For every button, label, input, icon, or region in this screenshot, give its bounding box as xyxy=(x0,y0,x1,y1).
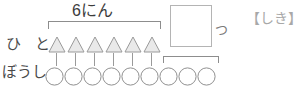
circle-icon xyxy=(121,66,140,87)
people-triangle-row xyxy=(47,33,161,53)
connector-line xyxy=(142,53,161,66)
group-count-label: 6にん xyxy=(72,1,113,20)
worksheet-figure: 6にん つ 【しき】 ひ と xyxy=(0,0,303,89)
connector-line xyxy=(66,53,85,66)
circle-icon xyxy=(159,66,178,87)
unit-suffix-label: つ xyxy=(215,22,228,38)
circle-icon xyxy=(102,66,121,87)
triangle-icon xyxy=(142,33,161,53)
formula-marker-label: 【しき】 xyxy=(246,10,302,27)
connector-line-group xyxy=(47,53,161,66)
connector-line xyxy=(47,53,66,66)
circle-icon xyxy=(140,66,159,87)
triangle-icon xyxy=(123,33,142,53)
connector-line xyxy=(85,53,104,66)
triangle-icon xyxy=(47,33,66,53)
circle-icon xyxy=(83,66,102,87)
circle-icon xyxy=(197,66,216,87)
triangle-icon xyxy=(104,33,123,53)
triangle-icon xyxy=(85,33,104,53)
circle-icon xyxy=(178,66,197,87)
row-label-hats: ぼうし xyxy=(2,62,47,82)
hats-circle-row xyxy=(45,66,216,87)
circle-icon xyxy=(45,66,64,87)
connector-line xyxy=(123,53,142,66)
triangle-icon xyxy=(66,33,85,53)
answer-input-box[interactable] xyxy=(170,5,212,47)
connector-line xyxy=(104,53,123,66)
group-bracket-people xyxy=(48,21,161,29)
group-bracket-extra-hats xyxy=(163,56,219,63)
circle-icon xyxy=(64,66,83,87)
